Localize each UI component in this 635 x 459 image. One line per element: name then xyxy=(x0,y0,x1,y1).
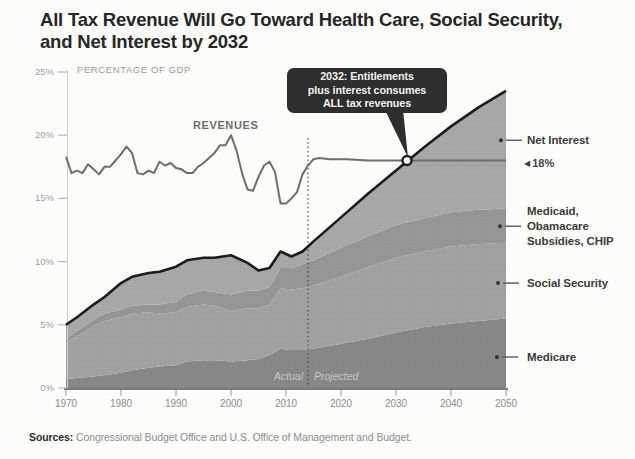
sources-text: Congressional Budget Office and U.S. Off… xyxy=(73,431,412,443)
x-tick-label: 1970 xyxy=(51,398,81,409)
x-tick-label: 2040 xyxy=(436,398,466,409)
legend-label-medicare: Medicare xyxy=(527,350,576,365)
legend-label-medicaid-obamacare-subsidies-chip: Medicaid, Obamacare Subsidies, CHIP xyxy=(527,204,614,249)
sources-label: Sources: xyxy=(29,431,73,443)
callout-tail xyxy=(385,110,408,157)
intersection-value-label: ◀18% xyxy=(524,157,554,169)
leader-dot-social-security xyxy=(496,281,500,285)
y-axis-unit-label: PERCENTAGE OF GDP xyxy=(77,64,191,75)
leader-dot-medicaid-obamacare-subsidies-chip xyxy=(498,224,502,228)
intersection-percent: 18% xyxy=(532,157,554,169)
y-tick-label: 10% xyxy=(26,256,54,267)
chart-title: All Tax Revenue Will Go Toward Health Ca… xyxy=(40,9,620,52)
y-tick-label: 5% xyxy=(26,319,54,330)
sources-note: Sources: Congressional Budget Office and… xyxy=(29,431,412,443)
intersection-marker xyxy=(403,156,412,165)
revenues-series-label: REVENUES xyxy=(193,119,258,131)
y-tick-label: 20% xyxy=(26,129,54,140)
chart-title-line2: and Net Interest by 2032 xyxy=(40,31,620,53)
x-tick-label: 1990 xyxy=(161,398,191,409)
actual-period-label: Actual xyxy=(255,370,303,382)
leader-dot-medicare xyxy=(495,355,499,359)
legend-label-social-security: Social Security xyxy=(527,276,608,291)
x-tick-label: 1980 xyxy=(106,398,136,409)
x-tick-label: 2050 xyxy=(491,398,521,409)
x-tick-label: 2000 xyxy=(216,398,246,409)
x-tick-label: 2010 xyxy=(271,398,301,409)
chart-title-line1: All Tax Revenue Will Go Toward Health Ca… xyxy=(40,9,620,31)
y-tick-label: 0% xyxy=(26,382,54,393)
x-tick-label: 2030 xyxy=(381,398,411,409)
x-tick-label: 2020 xyxy=(326,398,356,409)
annotation-callout: 2032: Entitlements plus interest consume… xyxy=(287,68,447,113)
y-tick-label: 15% xyxy=(26,192,54,203)
budget-chart-figure: All Tax Revenue Will Go Toward Health Ca… xyxy=(0,0,635,459)
leader-dot-net-interest xyxy=(499,138,503,142)
legend-label-net-interest: Net Interest xyxy=(527,133,589,148)
y-tick-label: 25% xyxy=(26,66,54,77)
projected-period-label: Projected xyxy=(314,370,358,382)
left-arrow-icon: ◀ xyxy=(524,159,530,168)
